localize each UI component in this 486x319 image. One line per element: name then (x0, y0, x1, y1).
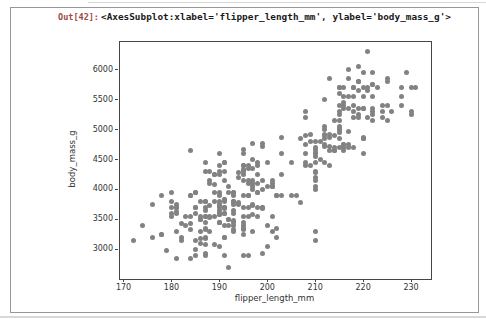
scatter-point (260, 141, 265, 146)
scatter-point (169, 214, 174, 219)
y-tick-label: 5500 (75, 95, 113, 105)
scatter-point (313, 169, 318, 174)
scatter-point (250, 141, 255, 146)
scatter-point (337, 91, 342, 96)
scatter-point (217, 193, 222, 198)
scatter-point (332, 118, 337, 123)
scatter-point (279, 193, 284, 198)
scatter-point (313, 151, 318, 156)
scatter-point (270, 181, 275, 186)
scatter-point (159, 232, 164, 237)
scatter-point (389, 109, 394, 114)
scatter-point (250, 166, 255, 171)
x-tick-label: 220 (348, 283, 378, 293)
scatter-point (322, 127, 327, 132)
y-tick-mark (115, 99, 118, 100)
scatter-point (193, 211, 198, 216)
scatter-point (303, 151, 308, 156)
scatter-point (265, 160, 270, 165)
x-tick-label: 190 (204, 283, 234, 293)
scatter-point (140, 223, 145, 228)
scatter-point (198, 229, 203, 234)
scatter-point (351, 145, 356, 150)
scatter-point (241, 232, 246, 237)
scatter-point (246, 166, 251, 171)
y-tick-mark (115, 159, 118, 160)
scatter-point (198, 241, 203, 246)
scatter-point (203, 236, 208, 241)
scatter-point (361, 151, 366, 156)
scatter-point (246, 253, 251, 258)
scatter-point (179, 238, 184, 243)
x-tick-mark (411, 279, 412, 282)
scatter-point (303, 142, 308, 147)
scatter-point (332, 133, 337, 138)
x-tick-label: 210 (300, 283, 330, 293)
scatter-point (207, 203, 212, 208)
y-tick-mark (115, 189, 118, 190)
x-tick-mark (219, 279, 220, 282)
x-tick-label: 170 (109, 283, 139, 293)
scatter-point (279, 151, 284, 156)
scatter-point (313, 238, 318, 243)
scatter-point (289, 160, 294, 165)
scatter-point (174, 229, 179, 234)
scatter-point (222, 253, 227, 258)
scatter-point (260, 178, 265, 183)
scatter-point (164, 248, 169, 253)
scatter-point (346, 76, 351, 81)
scatter-point (217, 151, 222, 156)
scatter-point (327, 76, 332, 81)
scatter-point (203, 220, 208, 225)
output-cell: Out[42]: <AxesSubplot:xlabel='flipper_le… (10, 7, 479, 313)
scatter-point (313, 139, 318, 144)
scatter-point (193, 247, 198, 252)
x-tick-label: 200 (252, 283, 282, 293)
scatter-point (212, 172, 217, 177)
scatter-point (203, 160, 208, 165)
scatter-point (265, 223, 270, 228)
y-tick-label: 4000 (75, 184, 113, 194)
scatter-point (274, 226, 279, 231)
scatter-point (399, 85, 404, 90)
scatter-point (188, 227, 193, 232)
scatter-point (241, 151, 246, 156)
x-tick-label: 230 (396, 283, 426, 293)
scatter-point (313, 145, 318, 150)
scatter-point (159, 193, 164, 198)
scatter-point (193, 190, 198, 195)
scatter-point (212, 182, 217, 187)
scatter-point (274, 235, 279, 240)
scatter-point (385, 103, 390, 108)
scatter-point (356, 64, 361, 69)
scatter-point (337, 112, 342, 117)
scatter-point (409, 112, 414, 117)
scatter-point (361, 136, 366, 141)
scatter-point (203, 214, 208, 219)
scatter-point (203, 205, 208, 210)
scatter-point (246, 193, 251, 198)
scatter-point (222, 235, 227, 240)
scatter-point (337, 118, 342, 123)
scatter-point (260, 187, 265, 192)
scatter-point (327, 148, 332, 153)
scatter-point (308, 163, 313, 168)
scatter-point (351, 115, 356, 120)
scatter-point (241, 253, 246, 258)
scatter-point (198, 217, 203, 222)
scatter-point (207, 229, 212, 234)
scatter-point (174, 211, 179, 216)
scatter-point (294, 193, 299, 198)
scatter-point (217, 169, 222, 174)
scatter-point (193, 205, 198, 210)
scatter-point (241, 169, 246, 174)
x-tick-label: 180 (156, 283, 186, 293)
x-tick-mark (171, 279, 172, 282)
scatter-point (203, 169, 208, 174)
axes-layer: 1701801902002102202303000350040004500500… (119, 41, 430, 278)
scatter-point (222, 205, 227, 210)
y-tick-label: 3500 (75, 214, 113, 224)
scatter-point (298, 200, 303, 205)
scatter-point (203, 226, 208, 231)
scatter-point (174, 205, 179, 210)
